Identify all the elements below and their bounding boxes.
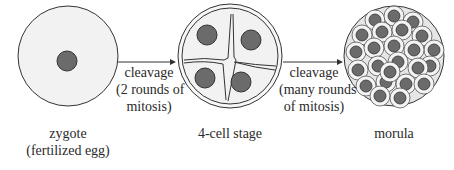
zygote-nucleus: [57, 51, 77, 71]
zygote-cell: [18, 6, 118, 106]
transition-1-label: cleavage (2 rounds of mitosis): [116, 64, 182, 115]
label-line: cleavage: [116, 64, 182, 81]
label-line: (fertilized egg): [18, 142, 118, 159]
label-line: cleavage: [279, 64, 349, 81]
label-line: zygote: [18, 125, 118, 142]
label-line: morula: [354, 125, 434, 142]
label-line: (2 rounds of: [116, 81, 182, 98]
morula-embryo: [344, 6, 444, 108]
label-line: mitosis): [116, 98, 182, 115]
label-line: 4-cell stage: [180, 125, 280, 142]
four-cell-label: 4-cell stage: [180, 125, 280, 142]
transition-2-label: cleavage (many rounds of mitosis): [279, 64, 349, 115]
label-line: (many rounds: [279, 81, 349, 98]
label-line: of mitosis): [279, 98, 349, 115]
nucleus-3: [195, 68, 215, 88]
nucleus-1: [197, 25, 217, 45]
nucleus-4: [231, 72, 251, 92]
nucleus-2: [241, 30, 261, 50]
morula-label: morula: [354, 125, 434, 142]
zygote-label: zygote (fertilized egg): [18, 125, 118, 159]
four-cell-embryo: [178, 4, 282, 108]
